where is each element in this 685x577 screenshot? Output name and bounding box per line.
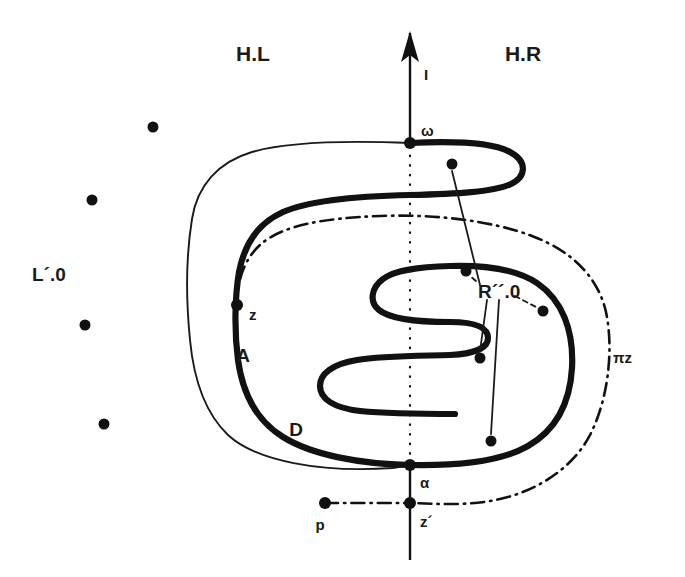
label-half-plane-left: H.L bbox=[236, 42, 270, 65]
diagram-canvas: H.L H.R I ω α z´ p z A D L´.0 R´´.0 πz bbox=[0, 0, 685, 577]
label-region-A: A bbox=[236, 345, 250, 366]
node-z-prime bbox=[404, 497, 416, 509]
leader-line-to-bottom-point bbox=[491, 300, 499, 434]
node-z bbox=[231, 299, 243, 311]
leader-line-to-left-point bbox=[470, 276, 476, 281]
left-point bbox=[148, 122, 159, 133]
label-z: z bbox=[249, 306, 257, 323]
label-pi-z: πz bbox=[613, 349, 632, 366]
right-point bbox=[461, 266, 472, 277]
right-point bbox=[538, 306, 549, 317]
right-point bbox=[475, 353, 486, 364]
left-point bbox=[99, 419, 110, 430]
label-half-plane-right: H.R bbox=[505, 42, 541, 65]
figure-root: H.L H.R I ω α z´ p z A D L´.0 R´´.0 πz bbox=[0, 0, 685, 577]
thick-spiral-curve bbox=[235, 142, 572, 465]
left-point bbox=[80, 320, 91, 331]
left-point bbox=[87, 195, 98, 206]
label-p: p bbox=[315, 516, 324, 533]
label-left-set: L´.0 bbox=[32, 264, 66, 285]
right-point bbox=[486, 436, 497, 447]
label-region-D: D bbox=[289, 419, 303, 440]
node-omega bbox=[404, 137, 416, 149]
label-alpha: α bbox=[420, 474, 430, 491]
label-right-set: R´´.0 bbox=[478, 281, 520, 302]
node-p bbox=[319, 497, 331, 509]
label-axis-I: I bbox=[424, 66, 428, 83]
label-z-prime: z´ bbox=[420, 513, 433, 530]
label-omega: ω bbox=[421, 122, 434, 139]
node-alpha bbox=[404, 459, 416, 471]
dashdot-curve-piz bbox=[237, 216, 609, 504]
right-point bbox=[447, 159, 458, 170]
